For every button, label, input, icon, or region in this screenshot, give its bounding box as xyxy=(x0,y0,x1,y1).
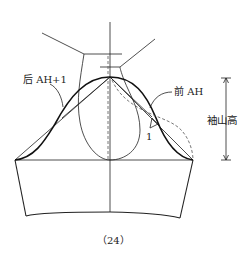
back-armhole-label: 后 AH+1 xyxy=(23,75,67,85)
front-shoulder-line xyxy=(120,39,155,67)
back-label-leader xyxy=(50,84,63,107)
cap-height-label: 袖山高 xyxy=(207,115,237,126)
front-underarm-seam xyxy=(180,160,193,218)
pattern-drawing xyxy=(0,0,251,257)
back-shoulder-line xyxy=(42,33,84,54)
front-armhole-label: 前 AH xyxy=(174,87,203,97)
front-label-leader xyxy=(150,92,172,108)
figure-number: （24） xyxy=(97,236,130,246)
back-underarm-seam xyxy=(15,160,26,216)
sleeve-cap-curve xyxy=(15,77,193,160)
ease-mark-label: 1 xyxy=(146,132,152,142)
sleeve-draft-diagram: 后 AH+1 前 AH 袖山高 1 （24） xyxy=(0,0,251,257)
hem-line xyxy=(26,212,180,218)
armhole-curve xyxy=(78,54,140,160)
